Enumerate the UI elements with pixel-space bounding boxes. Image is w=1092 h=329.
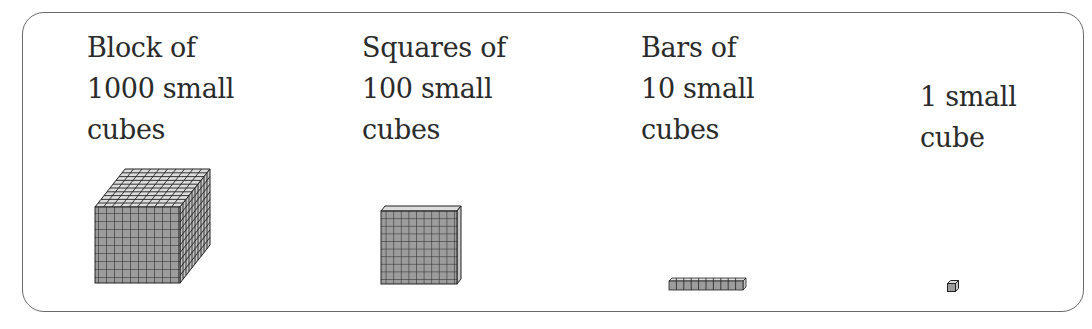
block-1000-cube-icon (90, 165, 215, 285)
label-line: 10 small (641, 68, 754, 109)
label-line: cube (920, 117, 1017, 158)
flat-100-square-icon (378, 203, 468, 287)
label-line: 1000 small (87, 68, 234, 109)
label-line: cubes (641, 109, 754, 150)
label-line: Bars of (641, 27, 754, 68)
rod-10-bar-icon (667, 276, 749, 292)
label-block-1000: Block of 1000 small cubes (87, 27, 234, 150)
label-line: 1 small (920, 76, 1017, 117)
label-line: cubes (87, 109, 234, 150)
label-line: 100 small (362, 68, 506, 109)
label-rod-10: Bars of 10 small cubes (641, 27, 754, 150)
label-unit-1: 1 small cube (920, 76, 1017, 158)
label-line: Block of (87, 27, 234, 68)
label-line: Squares of (362, 27, 506, 68)
label-line: cubes (362, 109, 506, 150)
unit-1-cube-icon (946, 279, 960, 293)
label-flat-100: Squares of 100 small cubes (362, 27, 506, 150)
